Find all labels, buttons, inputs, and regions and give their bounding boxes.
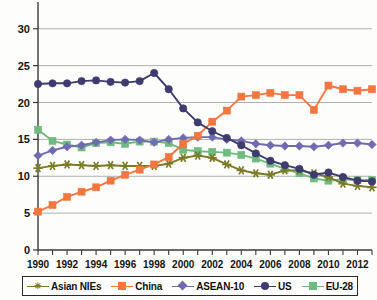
data-point bbox=[164, 160, 173, 168]
data-point bbox=[353, 139, 361, 147]
x-tick-label: 1996 bbox=[114, 259, 137, 270]
x-tick-label: 2012 bbox=[346, 259, 369, 270]
data-point bbox=[281, 92, 288, 99]
plot-area: 1990199219941996199820002002200420062008… bbox=[0, 0, 377, 272]
legend-item-asean-10[interactable]: ASEAN-10 bbox=[172, 281, 244, 292]
data-point bbox=[339, 173, 346, 180]
legend-label: US bbox=[278, 281, 292, 292]
data-point bbox=[64, 193, 71, 200]
data-point bbox=[121, 79, 128, 86]
data-point bbox=[237, 166, 246, 174]
series-line bbox=[38, 86, 372, 212]
data-point bbox=[310, 143, 318, 151]
data-point bbox=[209, 128, 216, 135]
x-tick-label: 1994 bbox=[85, 259, 108, 270]
y-tick-label: 0 bbox=[24, 244, 30, 256]
legend-item-asian-nies[interactable]: ✳Asian NIEs bbox=[27, 281, 101, 292]
data-point bbox=[78, 188, 85, 195]
data-point bbox=[223, 107, 230, 114]
x-tick-label: 1992 bbox=[56, 259, 79, 270]
data-point bbox=[222, 160, 231, 168]
data-point bbox=[136, 166, 143, 173]
y-tick-label: 10 bbox=[18, 170, 30, 182]
x-tick-label: 2006 bbox=[259, 259, 282, 270]
legend-item-china[interactable]: China bbox=[111, 281, 162, 292]
y-tick-label: 20 bbox=[18, 97, 30, 109]
data-point bbox=[252, 140, 260, 148]
data-point bbox=[267, 89, 274, 96]
y-tick-label: 30 bbox=[18, 23, 30, 35]
data-point bbox=[34, 80, 41, 87]
data-point bbox=[368, 178, 375, 185]
legend-label: EU-28 bbox=[326, 281, 353, 292]
data-point bbox=[310, 106, 317, 113]
data-point bbox=[266, 171, 275, 179]
data-point bbox=[194, 132, 201, 139]
chart-container: 1990199219941996199820002002200420062008… bbox=[0, 0, 377, 300]
data-point bbox=[78, 77, 85, 84]
data-point bbox=[179, 154, 188, 162]
data-point bbox=[77, 161, 86, 169]
data-point bbox=[238, 151, 245, 158]
data-point bbox=[121, 162, 130, 170]
legend-item-eu-28[interactable]: EU-28 bbox=[302, 281, 353, 292]
data-point bbox=[180, 140, 187, 147]
data-point bbox=[92, 77, 99, 84]
x-tick-label: 1998 bbox=[143, 259, 166, 270]
legend-label: ASEAN-10 bbox=[196, 281, 244, 292]
x-tick-label: 2004 bbox=[230, 259, 253, 270]
data-point bbox=[91, 162, 100, 170]
data-point bbox=[48, 162, 57, 170]
legend-label: Asian NIEs bbox=[51, 281, 101, 292]
gridlines bbox=[38, 29, 372, 213]
data-point bbox=[107, 177, 114, 184]
data-point bbox=[107, 78, 114, 85]
data-point bbox=[165, 86, 172, 93]
data-point bbox=[49, 202, 56, 209]
x-axis bbox=[38, 250, 372, 255]
series-line bbox=[38, 156, 372, 188]
y-tick-label: 25 bbox=[18, 60, 30, 72]
legend-marker-circle-icon bbox=[254, 281, 276, 292]
data-point bbox=[49, 137, 56, 144]
chart-legend: ✳Asian NIEsChinaASEAN-10USEU-28 bbox=[22, 276, 358, 296]
x-tick-labels: 1990199219941996199820002002200420062008… bbox=[27, 259, 369, 270]
data-point bbox=[180, 105, 187, 112]
x-tick-label: 2008 bbox=[288, 259, 311, 270]
legend-item-us[interactable]: US bbox=[254, 281, 292, 292]
data-point bbox=[281, 161, 288, 168]
data-point bbox=[35, 126, 42, 133]
data-point bbox=[266, 141, 274, 149]
data-point bbox=[238, 142, 245, 149]
data-point bbox=[339, 86, 346, 93]
data-point bbox=[223, 149, 230, 156]
legend-marker-star-icon: ✳ bbox=[27, 281, 49, 292]
data-point bbox=[296, 92, 303, 99]
data-point bbox=[325, 169, 332, 176]
series-china bbox=[35, 82, 376, 215]
x-tick-label: 2002 bbox=[201, 259, 224, 270]
legend-marker-diamond-icon bbox=[172, 281, 194, 292]
y-tick-label: 15 bbox=[18, 133, 30, 145]
y-tick-label: 5 bbox=[24, 207, 30, 219]
data-point bbox=[296, 165, 303, 172]
data-point bbox=[281, 142, 289, 150]
data-point bbox=[295, 142, 303, 150]
data-point bbox=[35, 208, 42, 215]
legend-marker-square-icon bbox=[111, 281, 133, 292]
data-point bbox=[93, 184, 100, 191]
series-us bbox=[34, 69, 375, 185]
legend-label: China bbox=[135, 281, 162, 292]
data-point bbox=[106, 161, 115, 169]
y-tick-labels: 051015202530 bbox=[18, 23, 30, 256]
data-point bbox=[354, 177, 361, 184]
data-point bbox=[122, 171, 129, 178]
data-point bbox=[34, 151, 42, 159]
data-point bbox=[165, 154, 172, 161]
x-tick-label: 2010 bbox=[317, 259, 340, 270]
data-point bbox=[194, 119, 201, 126]
data-point bbox=[325, 82, 332, 89]
data-point bbox=[151, 161, 158, 168]
data-point bbox=[369, 86, 376, 93]
x-tick-label: 1990 bbox=[27, 259, 50, 270]
